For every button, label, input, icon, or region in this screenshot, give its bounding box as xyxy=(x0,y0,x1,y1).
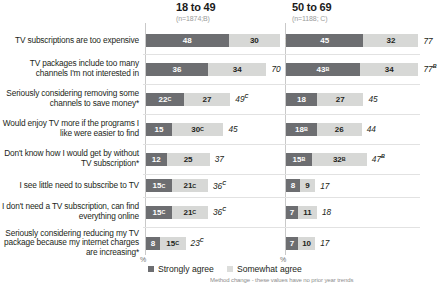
bar-segment-strongly-agree: 7 xyxy=(286,206,298,219)
column-title: 18 to 49 xyxy=(176,1,215,13)
bar-panel-b: 71118 xyxy=(283,197,420,227)
row-panels: 15C21C36C8917 xyxy=(143,174,420,197)
stacked-bar: 182745 xyxy=(286,93,378,106)
significance-marker: C xyxy=(200,237,204,243)
bar-total-label: 17 xyxy=(320,181,329,191)
bar-total-label: 45 xyxy=(368,94,377,104)
row-panels: 12253715B32B47B xyxy=(143,144,420,174)
column-sample-size: (n=1874;B) xyxy=(176,14,215,24)
bar-total-label: 45 xyxy=(228,124,237,134)
row-panels: 1530C4518B2644 xyxy=(143,114,420,144)
stacked-bar: 71118 xyxy=(286,206,331,219)
bar-segment-strongly-agree: 36 xyxy=(146,63,208,76)
bar-segment-strongly-agree: 18 xyxy=(286,93,317,106)
legend: Strongly agree Somewhat agree xyxy=(148,264,302,274)
bar-total-label: 77B xyxy=(423,64,436,74)
row-label: I don't need a TV subscription, can find… xyxy=(0,202,143,221)
chart-row: TV packages include too many channels I'… xyxy=(0,54,420,84)
stacked-bar: 483078 xyxy=(146,34,294,47)
bar-segment-somewhat-agree: 9 xyxy=(300,179,315,192)
bar-total-label: 49C xyxy=(235,94,248,104)
bar-panel-b: 71017 xyxy=(283,227,420,259)
legend-item-somewhat-agree: Somewhat agree xyxy=(227,264,302,274)
row-label: Seriously considering removing some chan… xyxy=(0,89,143,108)
bar-panel-a: 22C2749C xyxy=(143,84,283,114)
row-panels: 15C21C36C71118 xyxy=(143,197,420,227)
column-sample-size: (n=1188; C) xyxy=(292,14,331,24)
bar-segment-somewhat-agree: 27 xyxy=(317,93,363,106)
stacked-bar: 1530C45 xyxy=(146,123,238,136)
axis-label-percent-a: % xyxy=(140,256,146,263)
bar-panel-b: 453277 xyxy=(283,27,420,54)
bar-segment-strongly-agree: 8 xyxy=(286,179,300,192)
bar-total-label: 44 xyxy=(367,124,376,134)
bar-total-label: 23C xyxy=(191,238,204,248)
bar-segment-somewhat-agree: 27 xyxy=(184,93,230,106)
bar-segment-strongly-agree: 45 xyxy=(286,34,363,47)
bar-segment-somewhat-agree: 15C xyxy=(160,237,186,250)
stacked-bar: 363470 xyxy=(146,63,281,76)
row-panels: 815C23C71017 xyxy=(143,227,420,259)
footnote: Method change - these values have no pri… xyxy=(210,277,420,284)
row-panels: 22C2749C182745 xyxy=(143,84,420,114)
bar-panel-b: 182745 xyxy=(283,84,420,114)
chart-row: TV subscriptions are too expensive483078… xyxy=(0,27,420,54)
chart-row: Seriously considering removing some chan… xyxy=(0,84,420,114)
bar-segment-strongly-agree: 8 xyxy=(146,237,160,250)
row-label: TV packages include too many channels I'… xyxy=(0,59,143,78)
stacked-bar: 8917 xyxy=(286,179,329,192)
column-title: 50 to 69 xyxy=(292,1,331,13)
bar-panel-b: 43B3477B xyxy=(283,54,420,84)
bar-panel-a: 15C21C36C xyxy=(143,174,283,197)
bar-panel-a: 1530C45 xyxy=(143,114,283,144)
bar-segment-strongly-agree: 22C xyxy=(146,93,184,106)
chart-row: I see little need to subscribe to TV15C2… xyxy=(0,174,420,197)
column-header-50-to-69: 50 to 69 (n=1188; C) xyxy=(292,1,331,24)
bar-panel-a: 15C21C36C xyxy=(143,197,283,227)
legend-item-strongly-agree: Strongly agree xyxy=(148,264,214,274)
stacked-bar: 18B2644 xyxy=(286,123,376,136)
significance-marker: B xyxy=(381,153,385,159)
row-label: Seriously considering reducing my TV pac… xyxy=(0,229,143,258)
legend-swatch-icon xyxy=(227,266,233,272)
stacked-bar: 22C2749C xyxy=(146,93,248,106)
bar-total-label: 17 xyxy=(320,238,329,248)
row-label: TV subscriptions are too expensive xyxy=(0,36,143,46)
row-label: Would enjoy TV more if the programs I li… xyxy=(0,119,143,138)
significance-marker: C xyxy=(245,93,249,99)
bar-segment-somewhat-agree: 21C xyxy=(172,206,208,219)
bar-total-label: 70 xyxy=(271,64,280,74)
stacked-bar: 15C21C36C xyxy=(146,206,226,219)
bar-segment-somewhat-agree: 30C xyxy=(172,123,224,136)
stacked-bar: 122537 xyxy=(146,153,224,166)
bar-segment-strongly-agree: 12 xyxy=(146,153,167,166)
axis-label-percent-b: % xyxy=(280,256,286,263)
row-panels: 36347043B3477B xyxy=(143,54,420,84)
legend-swatch-icon xyxy=(148,266,154,272)
bar-segment-strongly-agree: 7 xyxy=(286,237,298,250)
stacked-bar: 71017 xyxy=(286,237,329,250)
column-header-18-to-49: 18 to 49 (n=1874;B) xyxy=(176,1,215,24)
chart-rows: TV subscriptions are too expensive483078… xyxy=(0,27,420,259)
chart-row: Don't know how I would get by without TV… xyxy=(0,144,420,174)
bar-segment-strongly-agree: 15C xyxy=(146,179,172,192)
bar-total-label: 18 xyxy=(322,207,331,217)
bar-segment-somewhat-agree: 30 xyxy=(229,34,281,47)
stacked-bar: 43B3477B xyxy=(286,63,437,76)
bar-segment-strongly-agree: 15B xyxy=(286,153,312,166)
legend-label: Strongly agree xyxy=(158,264,214,274)
significance-marker: C xyxy=(222,180,226,186)
legend-label: Somewhat agree xyxy=(237,264,302,274)
bar-segment-somewhat-agree: 10 xyxy=(298,237,315,250)
bar-panel-a: 815C23C xyxy=(143,227,283,259)
chart-row: Would enjoy TV more if the programs I li… xyxy=(0,114,420,144)
bar-segment-strongly-agree: 15 xyxy=(146,123,172,136)
bar-panel-a: 122537 xyxy=(143,144,283,174)
bar-total-label: 36C xyxy=(213,181,226,191)
bar-total-label: 47B xyxy=(372,154,385,164)
stacked-bar: 453277 xyxy=(286,34,433,47)
bar-segment-strongly-agree: 43B xyxy=(286,63,360,76)
chart-row: I don't need a TV subscription, can find… xyxy=(0,197,420,227)
bar-segment-strongly-agree: 48 xyxy=(146,34,229,47)
